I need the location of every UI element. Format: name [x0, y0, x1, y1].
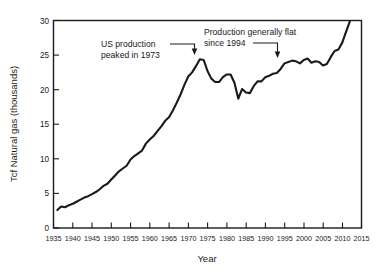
plot-frame: [54, 21, 362, 229]
y-axis-tick-labels: 0 5 10 15 20 25 30: [40, 17, 50, 234]
annotation-text-line-1: US production: [101, 39, 156, 49]
x-tick-label: 1940: [65, 234, 81, 243]
x-tick-label: 1965: [161, 234, 177, 243]
x-axis-tick-labels: 1935 1940 1945 1950 1955 1960 1965 1970 …: [46, 234, 370, 243]
annotation-text-line-2: peaked in 1973: [101, 50, 160, 60]
y-tick-label: 5: [44, 189, 49, 198]
annotation-text-line-1: Production generally flat: [204, 27, 297, 37]
x-tick-label: 2015: [354, 234, 370, 243]
x-axis-ticks: [54, 223, 362, 229]
x-tick-label: 1945: [84, 234, 100, 243]
x-tick-label: 1980: [219, 234, 235, 243]
annotation-leader-line: [253, 43, 278, 52]
x-tick-label: 1960: [142, 234, 158, 243]
y-axis-ticks: [54, 21, 60, 229]
y-tick-label: 0: [44, 224, 49, 233]
chart-container: 0 5 10 15 20 25 30 Tcf Natural gas (thou…: [0, 0, 387, 275]
x-tick-label: 2010: [335, 234, 351, 243]
x-tick-label: 1935: [46, 234, 62, 243]
y-axis-title: Tcf Natural gas (thousands): [8, 66, 19, 182]
x-tick-label: 1970: [180, 234, 196, 243]
annotation-peak-1973: US production peaked in 1973: [101, 39, 197, 60]
annotation-arrowhead: [275, 52, 281, 59]
x-axis-title: Year: [197, 253, 216, 264]
x-tick-label: 1975: [200, 234, 216, 243]
annotation-arrowhead: [192, 49, 198, 56]
x-tick-label: 2005: [315, 234, 331, 243]
x-tick-label: 1955: [123, 234, 139, 243]
natural-gas-production-line-chart: 0 5 10 15 20 25 30 Tcf Natural gas (thou…: [0, 0, 387, 275]
annotation-flat-since-1994: Production generally flat since 1994: [204, 27, 297, 58]
y-tick-label: 20: [40, 86, 50, 95]
x-tick-label: 1995: [277, 234, 293, 243]
x-tick-label: 2000: [296, 234, 312, 243]
y-tick-label: 30: [40, 17, 50, 26]
y-tick-label: 15: [40, 120, 50, 129]
annotation-leader-line: [170, 44, 195, 50]
x-tick-label: 1985: [238, 234, 254, 243]
y-tick-label: 10: [40, 155, 50, 164]
x-tick-label: 1990: [257, 234, 273, 243]
y-tick-label: 25: [40, 51, 50, 60]
x-tick-label: 1950: [103, 234, 119, 243]
annotation-text-line-2: since 1994: [204, 38, 246, 48]
